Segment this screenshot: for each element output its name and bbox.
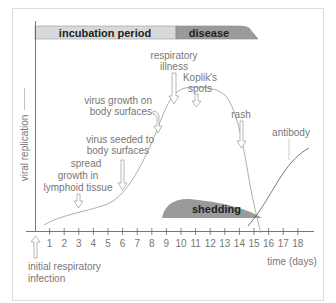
svg-text:16: 16 — [263, 238, 275, 249]
svg-text:18: 18 — [292, 238, 304, 249]
svg-text:7: 7 — [134, 238, 140, 249]
svg-text:11: 11 — [190, 238, 201, 249]
svg-text:10: 10 — [175, 238, 187, 249]
svg-text:6: 6 — [120, 238, 126, 249]
svg-text:3: 3 — [76, 238, 82, 249]
measles-pathogenesis-diagram: incubation period disease 12 34 56 78 91… — [0, 0, 336, 303]
kopliks-label: Koplik's — [183, 72, 217, 83]
svg-text:17: 17 — [278, 238, 290, 249]
svg-text:13: 13 — [219, 238, 231, 249]
svg-text:15: 15 — [248, 238, 260, 249]
svg-text:5: 5 — [105, 238, 111, 249]
spread-label: spread — [71, 158, 102, 169]
initial-infection-label-2: infection — [28, 273, 65, 284]
virus-growth-label: virus growth on — [84, 95, 152, 106]
respiratory-illness-label: respiratory — [150, 50, 197, 61]
disease-label: disease — [189, 27, 229, 39]
kopliks-label-2: spots — [188, 83, 212, 94]
rash-label: rash — [231, 109, 250, 120]
spread-label-3: lymphoid tissue — [44, 182, 113, 193]
initial-infection-label: initial respiratory — [28, 261, 101, 272]
svg-text:2: 2 — [61, 238, 67, 249]
svg-text:9: 9 — [164, 238, 170, 249]
svg-text:1: 1 — [47, 238, 53, 249]
virus-growth-label-2: body surfaces — [90, 106, 152, 117]
virus-seeded-label: virus seeded to — [86, 134, 154, 145]
x-axis-label: time (days) — [267, 256, 316, 267]
spread-label-2: growth in — [58, 170, 99, 181]
y-axis-label: viral replication — [19, 115, 30, 182]
svg-text:8: 8 — [149, 238, 155, 249]
incubation-label: incubation period — [59, 27, 151, 39]
shedding-label: shedding — [192, 203, 241, 215]
respiratory-illness-label-2: illness — [160, 61, 188, 72]
svg-text:14: 14 — [234, 238, 246, 249]
svg-text:4: 4 — [91, 238, 97, 249]
svg-text:12: 12 — [205, 238, 217, 249]
antibody-label: antibody — [272, 127, 310, 138]
virus-seeded-label-2: body surfaces — [87, 145, 149, 156]
